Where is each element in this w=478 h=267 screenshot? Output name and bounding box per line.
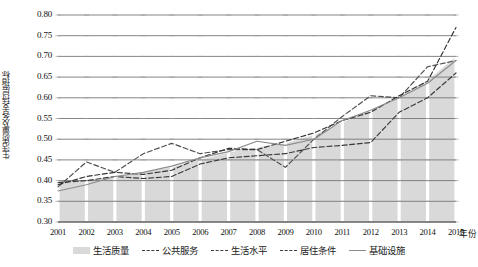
x-tick-label: 2002 (71, 227, 101, 237)
y-tick-label: 0.75 (22, 30, 52, 40)
legend-swatch-dashed (280, 250, 297, 251)
chart-container: 生活质量及各支持层指标 0.800.750.700.650.600.550.50… (0, 0, 478, 267)
x-tick-label: 2011 (327, 227, 357, 237)
x-tick-label: 2013 (384, 227, 414, 237)
legend-item-生活质量[interactable]: 生活质量 (73, 243, 129, 257)
x-tick-label: 2003 (100, 227, 130, 237)
legend-item-居住条件[interactable]: 居住条件 (280, 243, 336, 257)
legend-swatch-dashed (142, 250, 159, 251)
x-tick-label: 2010 (299, 227, 329, 237)
x-axis-title: 年份 (459, 227, 477, 239)
x-tick-label: 2012 (356, 227, 386, 237)
y-tick-label: 0.45 (22, 154, 52, 164)
y-tick-label: 0.35 (22, 195, 52, 205)
y-axis-title-text: 生活质量及各支持层指标 (4, 71, 12, 159)
y-tick-label: 0.65 (22, 71, 52, 81)
y-tick-label: 0.40 (22, 175, 52, 185)
x-tick-label: 2005 (157, 227, 187, 237)
y-tick-label: 0.50 (22, 133, 52, 143)
chart-legend: 生活质量公共服务生活水平居住条件基础设施 (0, 243, 478, 257)
y-tick-label: 0.60 (22, 92, 52, 102)
legend-swatch-dashed (211, 250, 228, 251)
legend-item-公共服务[interactable]: 公共服务 (142, 243, 198, 257)
legend-swatch-solid (349, 250, 366, 251)
legend-label: 居住条件 (300, 243, 336, 257)
x-tick-label: 2004 (128, 227, 158, 237)
legend-label: 公共服务 (162, 243, 198, 257)
y-tick-label: 0.80 (22, 9, 52, 19)
legend-label: 生活质量 (93, 243, 129, 257)
y-tick-label: 0.70 (22, 50, 52, 60)
legend-label: 生活水平 (231, 243, 267, 257)
x-tick-label: 2001 (43, 227, 73, 237)
y-axis-title: 生活质量及各支持层指标 (0, 0, 17, 230)
x-tick-label: 2007 (214, 227, 244, 237)
y-tick-label: 0.55 (22, 113, 52, 123)
x-tick-label: 2008 (242, 227, 272, 237)
x-tick-label: 2006 (185, 227, 215, 237)
y-tick-label: 0.30 (22, 216, 52, 226)
legend-swatch-area (73, 247, 90, 254)
x-tick-label: 2009 (270, 227, 300, 237)
legend-item-基础设施[interactable]: 基础设施 (349, 243, 405, 257)
x-tick-label: 2014 (413, 227, 443, 237)
legend-item-生活水平[interactable]: 生活水平 (211, 243, 267, 257)
legend-label: 基础设施 (369, 243, 405, 257)
